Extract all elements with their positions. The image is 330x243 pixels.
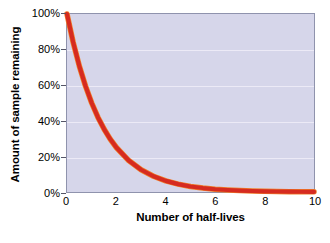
y-tick-label: 40%	[14, 116, 60, 127]
half-life-decay-chart: Amount of sample remaining 0%20%40%60%80…	[0, 0, 330, 243]
decay-curve-line	[67, 14, 314, 192]
decay-curve	[67, 14, 314, 192]
y-tick-label: 100%	[14, 8, 60, 19]
x-tick-label: 10	[300, 196, 330, 207]
x-tick-label: 8	[250, 196, 280, 207]
x-tick-label: 2	[101, 196, 131, 207]
decay-curve-highlight	[67, 14, 314, 192]
y-tick-label: 20%	[14, 152, 60, 163]
y-tick-mark	[61, 49, 66, 50]
y-tick-mark	[61, 13, 66, 14]
x-tick-label: 0	[51, 196, 81, 207]
plot-area	[66, 13, 315, 193]
y-axis-title: Amount of sample remaining	[6, 2, 24, 207]
y-tick-mark	[61, 85, 66, 86]
y-tick-mark	[61, 157, 66, 158]
y-tick-mark	[61, 121, 66, 122]
x-axis-title: Number of half-lives	[66, 211, 315, 223]
y-tick-label: 80%	[14, 44, 60, 55]
x-tick-label: 4	[151, 196, 181, 207]
x-tick-label: 6	[200, 196, 230, 207]
y-tick-mark	[61, 193, 66, 194]
y-tick-label: 60%	[14, 80, 60, 91]
